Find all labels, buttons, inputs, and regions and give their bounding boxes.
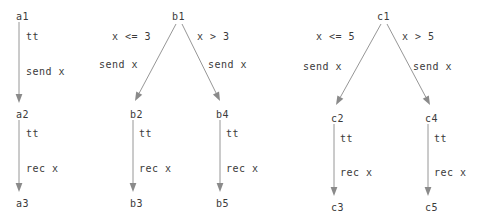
node-c1: c1 [377,12,390,22]
arrowhead-icon-a1-a2 [16,94,23,103]
node-c5: c5 [425,203,438,213]
arrowhead-icon-a2-a3 [16,183,23,192]
edge-action-label-c4-c5: rec x [434,168,467,178]
edge-guard-label-c2-c3: tt [340,134,353,144]
edge-guard-label-a2-a3: tt [26,129,39,139]
edge-action-label-c1-c2: send x [303,62,342,72]
edge-action-label-a1-a2: send x [26,67,65,77]
arrowhead-icon-c2-c3 [331,187,338,196]
node-a2: a2 [16,110,29,120]
node-a1: a1 [16,12,29,22]
edge-guard-label-b4-b5: tt [226,129,239,139]
node-b2: b2 [130,110,143,120]
edge-action-label-a2-a3: rec x [26,164,59,174]
node-b4: b4 [216,110,229,120]
arrowhead-icon-b1-b2 [135,91,142,101]
node-a3: a3 [16,199,29,209]
node-c2: c2 [331,114,344,124]
node-c3: c3 [331,203,344,213]
arrowhead-icon-c4-c5 [425,187,432,196]
arrowhead-icon-b1-b4 [213,91,220,101]
diagram-canvas: ttsend xttrec xa1a2a3x <= 3send xx > 3se… [0,0,483,220]
arrowhead-icon-b2-b3 [130,183,137,192]
edge-guard-label-c1-c4: x > 5 [402,32,435,42]
edge-guard-label-b1-b2: x <= 3 [112,32,151,42]
node-b1: b1 [172,12,185,22]
arrowhead-icon-c1-c4 [423,95,430,105]
edge-guard-label-b1-b4: x > 3 [197,32,230,42]
edge-guard-label-c1-c2: x <= 5 [316,32,355,42]
edge-guard-label-b2-b3: tt [139,129,152,139]
arrowhead-icon-c1-c2 [336,95,343,105]
edge-action-label-b1-b2: send x [99,60,138,70]
edge-action-label-b1-b4: send x [208,60,247,70]
edge-action-label-b2-b3: rec x [139,164,172,174]
edge-guard-label-a1-a2: tt [26,32,39,42]
node-c4: c4 [425,114,438,124]
edge-guard-label-c4-c5: tt [434,134,447,144]
node-b5: b5 [216,199,229,209]
edge-action-label-c1-c4: send x [413,62,452,72]
edge-action-label-c2-c3: rec x [340,168,373,178]
node-b3: b3 [130,199,143,209]
edge-action-label-b4-b5: rec x [226,164,259,174]
arrowhead-icon-b4-b5 [217,183,224,192]
